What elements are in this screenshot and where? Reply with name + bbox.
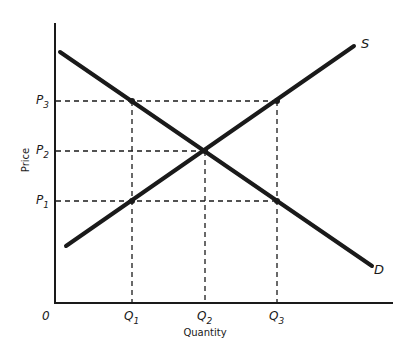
y-axis-title: Price [20, 148, 31, 172]
demand-label: D [374, 262, 384, 277]
guide-lines [56, 101, 277, 303]
origin-label: 0 [42, 309, 50, 323]
quantity-label-q1: Q1 [124, 309, 139, 326]
quantity-label-q3: Q3 [269, 309, 284, 326]
point-q1-p3 [129, 98, 135, 104]
point-q3-p3 [274, 98, 280, 104]
supply-demand-diagram: S D P3 P2 P1 Q1 Q2 Q3 0 Quantity Price [0, 0, 413, 355]
point-equilibrium [202, 148, 208, 154]
x-axis-title: Quantity [183, 327, 226, 338]
price-label-p1: P1 [36, 193, 49, 210]
price-label-p3: P3 [36, 93, 49, 110]
point-q3-p1 [274, 198, 280, 204]
supply-curve [66, 46, 354, 246]
supply-label: S [361, 36, 369, 51]
price-label-p2: P2 [36, 143, 49, 160]
quantity-label-q2: Q2 [197, 309, 212, 326]
demand-curve [60, 52, 372, 266]
point-q1-p1 [129, 198, 135, 204]
